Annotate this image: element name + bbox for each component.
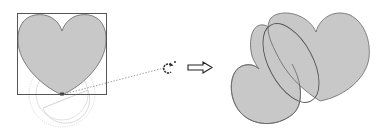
heart-shape[interactable] [18, 15, 106, 95]
rotate-icon [164, 61, 176, 73]
rotation-diagram [0, 0, 381, 140]
pivot-handle[interactable] [60, 93, 64, 96]
star-dot-icon [174, 61, 176, 63]
right-arrow-icon [188, 62, 212, 73]
